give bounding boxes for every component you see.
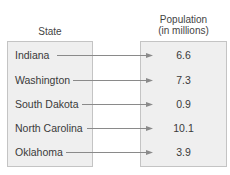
population-value: 7.3	[140, 72, 227, 88]
state-label: South Dakota	[15, 96, 79, 112]
population-value: 6.6	[140, 47, 227, 63]
population-value: 10.1	[140, 120, 227, 136]
population-value: 0.9	[140, 96, 227, 112]
state-label: Washington	[15, 72, 70, 88]
population-value: 3.9	[140, 144, 227, 160]
arrow-icon	[57, 53, 153, 58]
state-label: North Carolina	[15, 120, 83, 136]
state-label: Oklahoma	[15, 144, 63, 160]
state-label: Indiana	[15, 47, 49, 63]
